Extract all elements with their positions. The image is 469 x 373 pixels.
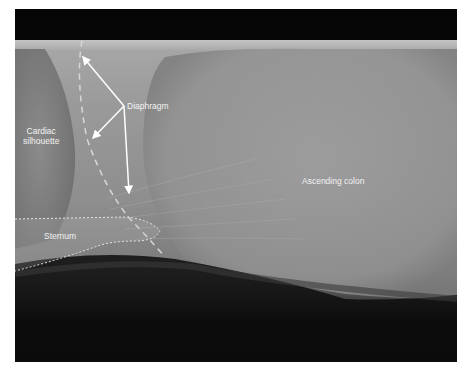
arrow-down-left-icon: [93, 106, 124, 138]
label-cardiac-line1: Cardiac: [23, 126, 59, 136]
label-sternum: Sternum: [44, 231, 76, 241]
arrow-up-icon: [83, 57, 124, 106]
label-cardiac-line2: silhouette: [23, 136, 59, 146]
radiograph-figure: Diaphragm Cardiac silhouette Sternum Asc…: [15, 9, 457, 362]
arrow-down-icon: [124, 106, 129, 193]
diaphragm-arrows: [83, 57, 129, 193]
label-diaphragm: Diaphragm: [127, 101, 169, 111]
ascending-colon-shape: [143, 49, 457, 299]
label-ascending-colon: Ascending colon: [302, 176, 364, 186]
label-cardiac-silhouette: Cardiac silhouette: [23, 126, 59, 146]
anatomy-overlay: [15, 9, 457, 362]
